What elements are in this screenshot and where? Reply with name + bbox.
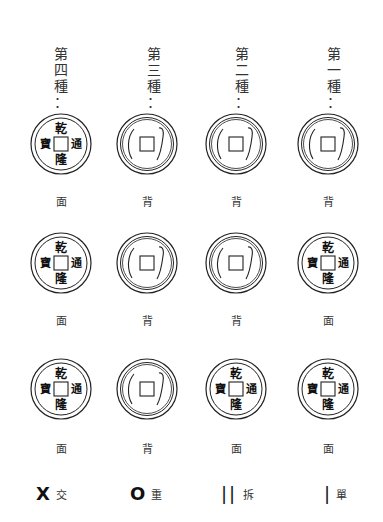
header-char: 二 — [235, 62, 249, 78]
header-char: 一 — [327, 62, 341, 78]
legend-item-zhong: O 重 — [130, 485, 162, 503]
svg-text:寶: 寶 — [40, 137, 51, 151]
coin-label: 背 — [216, 193, 256, 209]
svg-text:乾: 乾 — [322, 366, 334, 381]
coin-label: 背 — [127, 193, 167, 209]
coin-label: 面 — [41, 440, 81, 456]
legend-item-jiao: X 交 — [36, 485, 67, 503]
svg-text:通: 通 — [338, 383, 349, 396]
double-bar-icon: || — [221, 485, 237, 503]
svg-text:寶: 寶 — [40, 382, 51, 396]
coin-back-icon — [116, 232, 178, 294]
coin-label: 背 — [127, 440, 167, 456]
header-char: 第 — [54, 46, 68, 62]
coin-label: 背 — [216, 312, 256, 328]
coin-back-icon — [116, 358, 178, 420]
x-mark-icon: X — [36, 485, 50, 503]
svg-text:寶: 寶 — [307, 382, 318, 396]
column-header-2nd-kind: 第 二 種 ： — [232, 46, 252, 110]
legend-label: 交 — [56, 486, 67, 502]
coin-face-icon: 乾 隆 寶 通 — [30, 232, 92, 294]
svg-text:隆: 隆 — [230, 397, 243, 412]
coin-back-icon — [116, 113, 178, 175]
header-char: 三 — [147, 62, 161, 78]
header-char: ： — [147, 94, 161, 110]
header-char: 四 — [54, 62, 68, 78]
column-header-3rd-kind: 第 三 種 ： — [144, 46, 164, 110]
legend-label: 單 — [336, 486, 347, 502]
header-char: 種 — [54, 78, 68, 94]
svg-text:通: 通 — [71, 138, 82, 151]
svg-text:通: 通 — [71, 257, 82, 270]
coin-back-icon — [205, 113, 267, 175]
header-char: ： — [327, 94, 341, 110]
header-char: 第 — [327, 46, 341, 62]
svg-text:乾: 乾 — [55, 366, 67, 381]
column-header-1st-kind: 第 一 種 ： — [324, 46, 344, 110]
coin-label: 面 — [41, 312, 81, 328]
coin-face-icon: 乾 隆 寶 通 — [205, 358, 267, 420]
coin-face-icon: 乾 隆 寶 通 — [30, 113, 92, 175]
svg-text:乾: 乾 — [230, 366, 242, 381]
circle-mark-icon: O — [130, 485, 145, 503]
svg-text:乾: 乾 — [55, 121, 67, 136]
coin-label: 背 — [308, 193, 348, 209]
legend-item-dan: | 單 — [324, 485, 347, 503]
header-char: 種 — [235, 78, 249, 94]
coin-face-icon: 乾 隆 寶 通 — [297, 358, 359, 420]
single-bar-icon: | — [324, 485, 330, 503]
header-char: 種 — [147, 78, 161, 94]
header-char: ： — [235, 94, 249, 110]
svg-text:通: 通 — [246, 383, 257, 396]
legend-label: 重 — [151, 486, 162, 502]
header-char: ： — [54, 94, 68, 110]
coin-back-icon — [205, 232, 267, 294]
svg-text:寶: 寶 — [307, 256, 318, 270]
svg-text:隆: 隆 — [55, 271, 68, 286]
svg-text:隆: 隆 — [55, 397, 68, 412]
column-header-4th-kind: 第 四 種 ： — [51, 46, 71, 110]
header-char: 種 — [327, 78, 341, 94]
coin-face-icon: 乾 隆 寶 通 — [297, 232, 359, 294]
legend-item-chai: || 拆 — [221, 485, 254, 503]
svg-text:通: 通 — [338, 257, 349, 270]
coin-label: 面 — [308, 440, 348, 456]
svg-text:通: 通 — [71, 383, 82, 396]
coin-back-icon — [297, 113, 359, 175]
svg-text:寶: 寶 — [215, 382, 226, 396]
svg-text:隆: 隆 — [55, 152, 68, 167]
coin-label: 面 — [41, 193, 81, 209]
coin-face-icon: 乾 隆 寶 通 — [30, 358, 92, 420]
svg-text:寶: 寶 — [40, 256, 51, 270]
svg-text:乾: 乾 — [322, 240, 334, 255]
legend-label: 拆 — [243, 486, 254, 502]
svg-text:乾: 乾 — [55, 240, 67, 255]
svg-text:隆: 隆 — [322, 397, 335, 412]
header-char: 第 — [235, 46, 249, 62]
coin-label: 面 — [308, 312, 348, 328]
coin-label: 面 — [216, 440, 256, 456]
header-char: 第 — [147, 46, 161, 62]
coin-label: 背 — [127, 312, 167, 328]
svg-text:隆: 隆 — [322, 271, 335, 286]
